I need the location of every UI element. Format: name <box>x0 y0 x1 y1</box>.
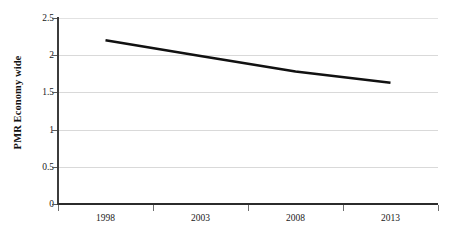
line-chart: PMR Economy wide 00.511.522.5 1998200320… <box>0 0 453 245</box>
y-axis-tick-labels: 00.511.522.5 <box>28 0 54 245</box>
y-axis-title: PMR Economy wide <box>8 0 28 205</box>
x-axis-tick-label: 2013 <box>381 213 400 223</box>
x-axis-tick-mark <box>343 205 344 211</box>
x-axis-tick-mark <box>248 205 249 211</box>
x-axis-tick-mark <box>153 205 154 211</box>
y-axis-line <box>57 17 59 205</box>
x-axis-tick-label: 2003 <box>191 213 210 223</box>
plot-area <box>58 18 438 204</box>
series-layer <box>58 18 438 204</box>
x-axis-tick-mark <box>58 205 59 211</box>
x-axis-tick-label: 1998 <box>96 213 115 223</box>
data-series-line <box>106 40 391 82</box>
x-axis-tick-mark <box>438 205 439 211</box>
y-axis-title-text: PMR Economy wide <box>13 56 24 150</box>
x-axis-tick-label: 2008 <box>286 213 305 223</box>
